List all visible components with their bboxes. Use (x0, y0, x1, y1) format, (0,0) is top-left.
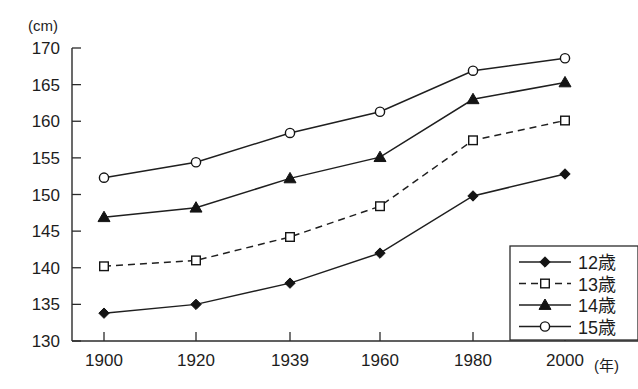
series-layer (98, 54, 571, 319)
data-point-marker-square (469, 136, 478, 145)
x-tick-label: 1939 (271, 351, 309, 370)
legend-label: 13歳 (578, 275, 616, 295)
y-tick-label: 165 (32, 76, 60, 95)
data-point-marker-triangle (559, 76, 571, 86)
data-point-marker-diamond (375, 248, 385, 258)
data-point-marker-diamond (191, 299, 201, 309)
data-point-marker-diamond (99, 308, 109, 318)
data-point-marker-circle (285, 128, 294, 137)
data-point-marker-square (561, 116, 570, 125)
chart-legend: 12歳13歳14歳15歳 (510, 246, 638, 340)
data-point-marker-triangle (374, 151, 386, 161)
data-point-marker-circle (540, 322, 549, 331)
chart-canvas: (cm) 170165160155150145140135130 1900192… (0, 0, 638, 389)
y-tick-label: 140 (32, 259, 60, 278)
series-14歳 (98, 76, 571, 221)
legend-label: 14歳 (578, 296, 616, 316)
y-tick-label: 130 (32, 332, 60, 351)
y-axis-unit-label: (cm) (28, 17, 58, 34)
x-tick-label: 1960 (361, 351, 399, 370)
series-line (104, 174, 565, 313)
data-point-marker-circle (191, 158, 200, 167)
data-point-marker-circle (468, 66, 477, 75)
data-point-marker-diamond (285, 278, 295, 288)
legend-label: 12歳 (578, 253, 616, 273)
x-tick-label: 1900 (85, 351, 123, 370)
x-tick-label: 1980 (454, 351, 492, 370)
data-point-marker-diamond (560, 169, 570, 179)
y-tick-label: 155 (32, 149, 60, 168)
x-tick-label: 1920 (177, 351, 215, 370)
x-axis-unit-label: (年) (594, 357, 619, 374)
series-12歳 (99, 169, 570, 319)
y-tick-label: 150 (32, 186, 60, 205)
series-15歳 (99, 54, 569, 183)
series-line (104, 82, 565, 217)
data-point-marker-square (286, 233, 295, 242)
data-point-marker-circle (560, 54, 569, 63)
y-tick-label: 145 (32, 222, 60, 241)
series-line (104, 58, 565, 177)
line-chart-figure: (cm) 170165160155150145140135130 1900192… (0, 0, 638, 389)
data-point-marker-diamond (468, 191, 478, 201)
x-axis-ticks: 190019201939196019802000 (85, 332, 584, 370)
data-point-marker-square (192, 256, 201, 265)
data-point-marker-square (376, 202, 385, 211)
legend-label: 15歳 (578, 318, 616, 338)
data-point-marker-circle (99, 173, 108, 182)
x-tick-label: 2000 (546, 351, 584, 370)
data-point-marker-circle (375, 107, 384, 116)
y-tick-label: 160 (32, 112, 60, 131)
y-tick-label: 135 (32, 295, 60, 314)
y-axis-ticks: 170165160155150145140135130 (32, 39, 81, 351)
data-point-marker-square (541, 279, 550, 288)
y-tick-label: 170 (32, 39, 60, 58)
series-line (104, 121, 565, 267)
data-point-marker-square (100, 262, 109, 271)
series-13歳 (100, 116, 570, 270)
